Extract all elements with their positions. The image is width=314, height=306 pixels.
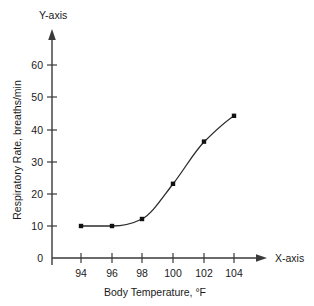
x-tick-label-102: 102 bbox=[195, 267, 213, 279]
y-tick-label-50: 50 bbox=[31, 91, 43, 103]
y-tick-label-60: 60 bbox=[31, 59, 43, 71]
y-axis-annotation-label: Y-axis bbox=[39, 9, 67, 21]
x-tick-label-100: 100 bbox=[164, 267, 182, 279]
y-tick-label-30: 30 bbox=[31, 156, 43, 168]
x-axis-title: Body Temperature, °F bbox=[104, 286, 206, 298]
x-tick-label-104: 104 bbox=[225, 267, 243, 279]
respiratory-rate-chart: Y-axis X-axis 60 50 40 30 20 10 0 94 96 bbox=[0, 0, 314, 306]
data-point-94 bbox=[79, 224, 83, 228]
y-tick-label-10: 10 bbox=[31, 220, 43, 232]
y-tick-label-0: 0 bbox=[37, 252, 43, 264]
x-tick-label-98: 98 bbox=[136, 267, 148, 279]
data-point-102 bbox=[202, 139, 206, 143]
data-point-98 bbox=[140, 217, 144, 221]
data-point-96 bbox=[110, 224, 114, 228]
x-axis-annotation-label: X-axis bbox=[275, 252, 304, 264]
y-axis-title: Respiratory Rate, breaths/min bbox=[11, 80, 23, 220]
y-tick-label-40: 40 bbox=[31, 124, 43, 136]
x-tick-label-96: 96 bbox=[106, 267, 118, 279]
data-point-104 bbox=[232, 114, 236, 118]
x-tick-label-94: 94 bbox=[75, 267, 87, 279]
data-point-100 bbox=[171, 182, 175, 186]
chart-background bbox=[0, 0, 314, 306]
y-tick-label-20: 20 bbox=[31, 188, 43, 200]
